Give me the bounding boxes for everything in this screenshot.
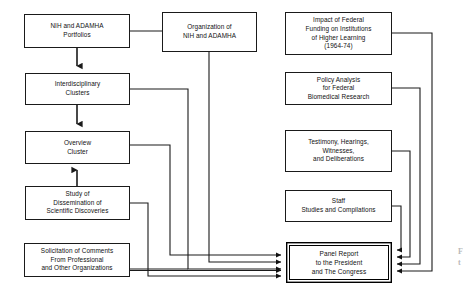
page-edge-caption-fragment: F t [458,246,472,268]
node-interdisciplinary-clusters[interactable]: Interdisciplinary Clusters [25,73,130,105]
node-organization-of-nih-and-adamha[interactable]: Organization of NIH and ADAMHA [162,12,257,52]
node-label: Study of Dissemination of Scientific Dis… [45,190,111,216]
node-label: Impact of Federal Funding on Institution… [304,16,374,50]
node-panel-report[interactable]: Panel Report to the President and The Co… [289,245,389,280]
node-impact-of-federal-funding[interactable]: Impact of Federal Funding on Institution… [285,12,392,55]
node-label: Overview Cluster [62,139,93,156]
node-policy-analysis[interactable]: Policy Analysis for Federal Biomedical R… [285,72,392,105]
node-label: Interdisciplinary Clusters [53,80,103,97]
node-label: Solicitation of Comments From Profession… [39,247,115,273]
flowchart-diagram: NIH and ADAMHA Portfolios Organization o… [0,0,473,296]
node-label: Staff Studies and Compilations [299,197,377,214]
node-nih-adamha-portfolios[interactable]: NIH and ADAMHA Portfolios [24,14,130,48]
node-testimony-hearings[interactable]: Testimony, Hearings, Witnesses, and Deli… [285,130,392,172]
node-study-of-dissemination[interactable]: Study of Dissemination of Scientific Dis… [25,186,130,220]
node-label: Policy Analysis for Federal Biomedical R… [306,76,372,102]
node-label: Testimony, Hearings, Witnesses, and Deli… [306,138,371,164]
node-overview-cluster[interactable]: Overview Cluster [25,131,130,164]
node-solicitation-of-comments[interactable]: Solicitation of Comments From Profession… [24,243,130,277]
node-staff-studies[interactable]: Staff Studies and Compilations [285,190,392,222]
node-label: NIH and ADAMHA Portfolios [48,22,105,39]
node-label: Organization of NIH and ADAMHA [181,23,238,40]
node-label: Panel Report to the President and The Co… [310,249,368,276]
